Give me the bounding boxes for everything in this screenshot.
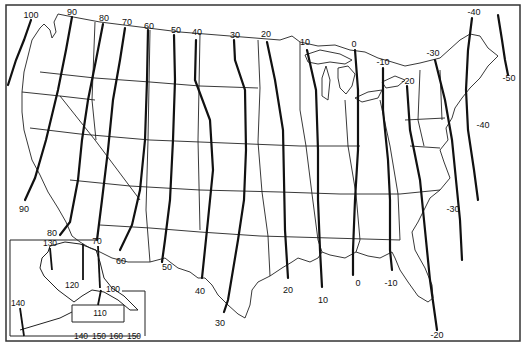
contour-20 [267, 42, 288, 278]
alaska-scale-160: 160 [109, 332, 123, 341]
label-60-top: 60 [144, 22, 154, 31]
label-minus10-bottom: -10 [384, 279, 397, 288]
contour-60 [120, 30, 148, 250]
contour-70 [97, 28, 125, 240]
label-50-top: 50 [171, 26, 181, 35]
label-50-bottom: 50 [162, 263, 172, 272]
alaska-label-120: 120 [65, 281, 79, 290]
label-40-bottom: 40 [195, 287, 205, 296]
label-30-bottom: 30 [215, 319, 225, 328]
us-outline [22, 14, 498, 318]
label-minus50: -50 [502, 74, 515, 83]
label-20-bottom: 20 [283, 286, 293, 295]
label-10-bottom: 10 [318, 296, 328, 305]
label-minus40-bottom: -40 [476, 121, 489, 130]
label-10-top: 10 [300, 38, 310, 47]
label-20-top: 20 [261, 30, 271, 39]
label-80-top: 80 [99, 14, 109, 23]
label-minus10-top: -10 [376, 58, 389, 67]
contour-30 [224, 40, 246, 312]
label-90-top: 90 [67, 8, 77, 17]
contour-minus30 [435, 60, 462, 260]
contour-40 [195, 40, 213, 278]
contour-0 [353, 50, 358, 275]
label-minus20-top: -20 [401, 77, 414, 86]
alaska-scale-150: 150 [92, 332, 106, 341]
label-100-top: 100 [23, 11, 38, 20]
label-0-top: 0 [351, 40, 356, 49]
alaska-label-70: 70 [92, 237, 101, 246]
alaska-scale-150b: 150 [127, 332, 141, 341]
label-40-top: 40 [192, 28, 202, 37]
label-minus30-bottom: -30 [446, 205, 459, 214]
map-drawing [0, 0, 524, 348]
label-minus40-top: -40 [467, 8, 480, 17]
label-30-top: 30 [230, 31, 240, 40]
alaska-label-110: 110 [93, 309, 107, 318]
label-minus20-bottom: -20 [430, 331, 443, 340]
label-minus30-top: -30 [426, 49, 439, 58]
label-0-bottom: 0 [355, 279, 360, 288]
label-80-bottom: 80 [47, 229, 57, 238]
alaska-label-130: 130 [43, 239, 57, 248]
contour-lines [8, 15, 508, 330]
contour-80 [60, 24, 103, 235]
alaska-scale-140: 140 [74, 332, 88, 341]
label-70-top: 70 [122, 18, 132, 27]
label-90-bottom: 90 [19, 205, 29, 214]
contour-minus40 [466, 18, 478, 200]
contour-minus50 [498, 15, 508, 75]
contour-map: 100 90 80 70 60 50 40 30 20 10 0 -10 -20… [0, 0, 524, 348]
alaska-label-100: 100 [106, 285, 120, 294]
label-60-bottom: 60 [116, 257, 126, 266]
contour-minus20 [407, 86, 437, 330]
contour-100 [8, 20, 31, 85]
contour-90 [25, 17, 72, 200]
contour-50 [162, 35, 175, 262]
alaska-label-140: 140 [11, 299, 25, 308]
